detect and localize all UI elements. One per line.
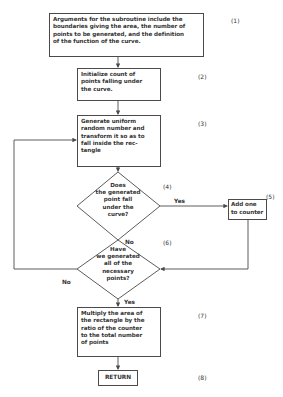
decision-all-generated-text: Have we generated all of the necessary p… [88,246,148,282]
process-box-initialize: Initialize count of points falling under… [77,68,161,101]
process-box-multiply: Multiply the area of the rectangle by th… [77,307,161,357]
edge-label-yes-all-generated: Yes [124,299,135,305]
edge-label-no-under-curve: No [125,239,134,245]
step-label-6: (6) [163,239,172,246]
step-label-7: (7) [198,312,207,319]
arrow-loop-back-to-generate [14,140,77,269]
step-label-5: (5) [266,193,275,200]
process-box-add-one: Add one to counter [228,199,267,220]
step-label-8: (8) [198,374,207,381]
edge-label-no-all-generated: No [62,279,71,285]
step-label-2: (2) [198,73,207,80]
step-label-1: (1) [231,17,240,24]
step-label-4: (4) [163,183,172,190]
arrow-add-one-to-decision-6 [161,219,248,269]
edge-label-yes-under-curve: Yes [174,198,185,204]
process-box-arguments: Arguments for the subroutine include the… [49,13,204,57]
process-box-generate: Generate uniform random number and trans… [77,115,161,167]
decision-under-curve-text: Does the generated point fall under the … [88,182,148,218]
terminal-box-return: RETURN [98,370,138,386]
step-label-3: (3) [198,120,207,127]
